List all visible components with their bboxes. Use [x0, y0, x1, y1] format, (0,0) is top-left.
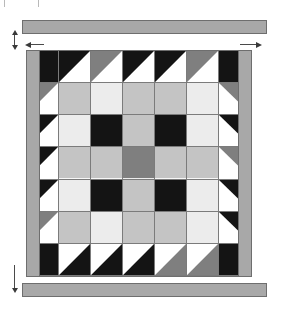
quilt-cell-half-square-triangle-r1c2 — [59, 51, 91, 83]
quilt-cell-half-square-triangle-r7c4 — [123, 244, 155, 276]
top-dimension-line-right — [240, 44, 256, 45]
quilt-cell-solid-r2c5 — [155, 83, 187, 115]
top-border-strip — [22, 20, 267, 34]
quilt-cell-solid-r4c3 — [91, 147, 123, 179]
quilt-cell-solid-r6c3 — [91, 212, 123, 244]
right-border-strip — [238, 51, 251, 276]
quilt-cell-half-square-triangle-r1c4 — [123, 51, 155, 83]
quilt-cell-solid-r5c5 — [155, 180, 187, 212]
quilt-cell-solid-r3c4 — [123, 115, 155, 147]
quilt-cell-solid-r4c2 — [59, 147, 91, 179]
top-dimension-arrow-left — [25, 42, 31, 48]
left-dimension-arrow-down-lower — [12, 288, 18, 293]
quilt-cell-solid-r2c2 — [59, 83, 91, 115]
quilt-cell-solid-r2c3 — [91, 83, 123, 115]
left-dimension-arrow-up — [12, 30, 18, 35]
quilt-cell-half-square-triangle-r1c6 — [187, 51, 219, 83]
quilt-cell-solid-r3c5 — [155, 115, 187, 147]
top-dimension-arrow-right — [256, 42, 262, 48]
quilt-cell-half-square-triangle-r1c5 — [155, 51, 187, 83]
quilt-cell-solid-r6c4 — [123, 212, 155, 244]
quilt-cell-solid-r5c4 — [123, 180, 155, 212]
left-border-strip — [27, 51, 40, 276]
quilt-cell-half-square-triangle-r7c5 — [155, 244, 187, 276]
figure-canvas — [0, 0, 289, 316]
left-dimension-line-lower — [14, 265, 15, 289]
quilt-cell-half-square-triangle-r7c6 — [187, 244, 219, 276]
quilt-cell-solid-r5c2 — [59, 180, 91, 212]
crop-tick-right — [38, 0, 39, 7]
quilt-cell-solid-r4c5 — [155, 147, 187, 179]
quilt-cell-solid-r5c3 — [91, 180, 123, 212]
quilt-cell-solid-r6c5 — [155, 212, 187, 244]
quilt-cell-solid-r4c6 — [187, 147, 219, 179]
quilt-cell-solid-r3c3 — [91, 115, 123, 147]
quilt-cell-half-square-triangle-r1c3 — [91, 51, 123, 83]
quilt-cell-grid — [27, 51, 251, 276]
quilt-cell-solid-r3c2 — [59, 115, 91, 147]
left-dimension-arrow-down — [12, 45, 18, 50]
quilt-cell-solid-r3c6 — [187, 115, 219, 147]
quilt-cell-solid-r6c2 — [59, 212, 91, 244]
quilt-cell-half-square-triangle-r7c3 — [91, 244, 123, 276]
quilt-cell-solid-r5c6 — [187, 180, 219, 212]
quilt-cell-solid-r2c4 — [123, 83, 155, 115]
quilt-cell-half-square-triangle-r7c2 — [59, 244, 91, 276]
bottom-border-strip — [22, 283, 267, 297]
quilt-cell-solid-r4c4 — [123, 147, 155, 179]
quilt-block-grid — [26, 50, 252, 277]
quilt-cell-solid-r6c6 — [187, 212, 219, 244]
crop-tick-left — [4, 0, 5, 7]
quilt-cell-solid-r2c6 — [187, 83, 219, 115]
